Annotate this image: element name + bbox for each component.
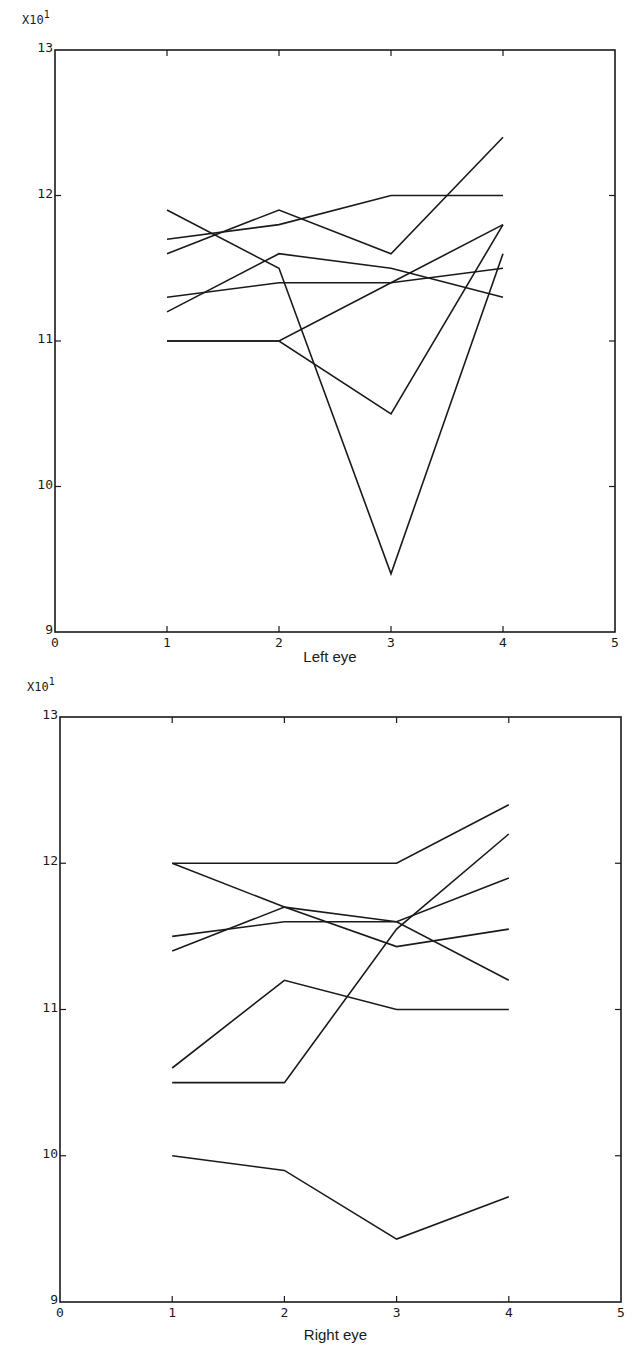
x-tick-label: 5 bbox=[617, 1305, 625, 1320]
y-tick-label: 12 bbox=[42, 853, 58, 868]
y-tick-label: 11 bbox=[42, 1000, 58, 1015]
plot-frame bbox=[60, 717, 621, 1302]
series-line-subject-3 bbox=[172, 878, 509, 951]
x-tick-label: 3 bbox=[393, 1305, 401, 1320]
series-line-subject-5 bbox=[172, 834, 509, 1083]
y-tick-label: 9 bbox=[50, 1292, 58, 1307]
x-tick-label: 4 bbox=[505, 1305, 513, 1320]
series-line-subject-4 bbox=[172, 922, 509, 981]
y-axis-multiplier: X101 bbox=[27, 676, 55, 694]
y-tick-label: 10 bbox=[42, 1146, 58, 1161]
x-tick-label: 2 bbox=[280, 1305, 288, 1320]
series-line-subject-6 bbox=[172, 980, 509, 1068]
x-axis-label: Right eye bbox=[304, 1326, 367, 1343]
right-eye-plot: 012345910111213X101Right eye bbox=[0, 0, 638, 1357]
series-line-subject-1 bbox=[172, 805, 509, 864]
x-tick-label: 1 bbox=[168, 1305, 176, 1320]
y-tick-label: 13 bbox=[42, 707, 58, 722]
series-line-subject-7 bbox=[172, 1156, 509, 1239]
right-eye-chart: 012345910111213X101Right eye bbox=[0, 0, 638, 1357]
x-tick-label: 0 bbox=[56, 1305, 64, 1320]
